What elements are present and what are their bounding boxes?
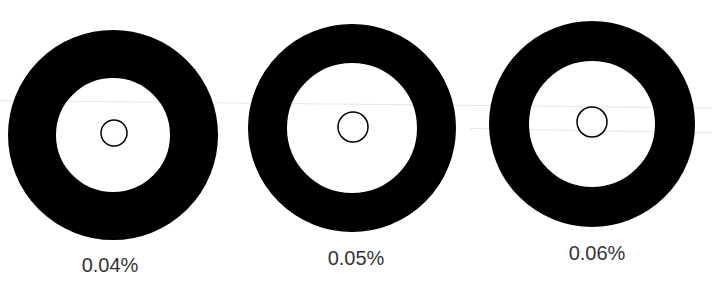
- center-dot-circle: [101, 120, 127, 146]
- ring-label-1: 0.04%: [82, 255, 139, 275]
- center-dot-circle: [577, 107, 607, 137]
- ring-target-3: [509, 41, 675, 207]
- ring-target-2: [268, 44, 437, 213]
- ring-target-1: [32, 54, 194, 216]
- center-dot-circle: [338, 112, 368, 142]
- ring-label-2: 0.05%: [328, 248, 385, 268]
- ring-label-3: 0.06%: [569, 243, 626, 263]
